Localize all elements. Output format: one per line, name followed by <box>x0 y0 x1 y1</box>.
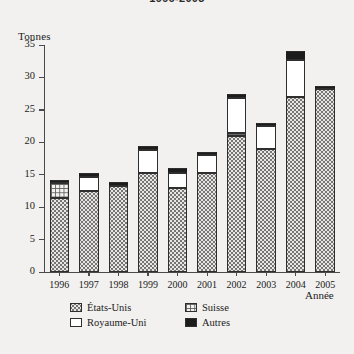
bar-segment-2000-autres <box>168 168 188 173</box>
y-axis-tick <box>39 142 44 143</box>
legend-label: Autres <box>202 317 230 328</box>
bar-segment-2002-autres <box>227 94 247 99</box>
legend-swatch-white-icon <box>70 318 82 327</box>
y-axis-tick-label: 10 <box>5 201 35 211</box>
x-axis-tick <box>59 272 60 276</box>
bar-2005 <box>315 86 335 272</box>
bar-1996 <box>50 180 70 272</box>
x-axis-tick <box>88 272 89 276</box>
bar-segment-2005-autres <box>315 86 335 89</box>
y-axis-tick <box>39 109 44 110</box>
legend-item-autres: Autres <box>185 317 300 328</box>
legend-item--tats-unis: États-Unis <box>70 302 185 313</box>
legend-item-suisse: Suisse <box>185 302 300 313</box>
bar-segment-2000--tats-unis <box>168 188 188 272</box>
x-axis-tick <box>177 272 178 276</box>
bar-segment-1996-autres <box>50 180 70 183</box>
y-axis-line <box>44 45 45 273</box>
y-axis-tick-label: 5 <box>5 234 35 244</box>
bar-segment-2002--tats-unis <box>227 136 247 272</box>
y-axis-tick <box>39 45 44 46</box>
bar-2001 <box>197 152 217 272</box>
bar-segment-1998-autres <box>109 182 129 186</box>
bar-segment-2004--tats-unis <box>286 97 306 272</box>
bar-2004 <box>286 51 306 272</box>
bar-segment-1999-royaume-uni <box>138 150 158 173</box>
bar-segment-1997-autres <box>79 173 99 177</box>
bar-segment-1996--tats-unis <box>50 198 70 272</box>
bar-segment-2003--tats-unis <box>256 149 276 272</box>
bar-segment-2000-royaume-uni <box>168 173 188 188</box>
x-axis-tick <box>236 272 237 276</box>
y-axis-tick-label: 15 <box>5 169 35 179</box>
x-axis-tick-label: 2005 <box>305 279 345 290</box>
y-axis-tick <box>39 77 44 78</box>
chart-figure: 1996-2005 Tonnes Année 05101520253035199… <box>0 0 354 354</box>
y-axis-tick <box>39 207 44 208</box>
legend-swatch-black-icon <box>185 318 197 327</box>
bar-segment-1997-royaume-uni <box>79 177 99 191</box>
bar-segment-1997--tats-unis <box>79 191 99 272</box>
bar-segment-2001--tats-unis <box>197 173 217 272</box>
y-axis-tick-label: 25 <box>5 104 35 114</box>
bar-2002 <box>227 94 247 272</box>
chart-legend: États-UnisSuisseRoyaume-UniAutres <box>70 300 300 330</box>
bar-1999 <box>138 146 158 272</box>
bar-2000 <box>168 168 188 272</box>
legend-label: Suisse <box>202 302 229 313</box>
bar-segment-1999--tats-unis <box>138 173 158 272</box>
y-axis-tick-label: 0 <box>5 266 35 276</box>
bar-segment-1998--tats-unis <box>109 186 129 272</box>
bar-segment-2004-royaume-uni <box>286 60 306 97</box>
bar-1997 <box>79 173 99 272</box>
legend-swatch-grid-icon <box>185 303 197 312</box>
bar-segment-2001-royaume-uni <box>197 155 217 173</box>
y-axis-tick-label: 35 <box>5 39 35 49</box>
bar-segment-2003-autres <box>256 123 276 126</box>
bar-segment-1999-autres <box>138 146 158 150</box>
bar-segment-2003-royaume-uni <box>256 126 276 149</box>
x-axis-tick <box>207 272 208 276</box>
y-axis-tick-label: 20 <box>5 136 35 146</box>
bar-segment-2005--tats-unis <box>315 89 335 272</box>
bar-segment-2002-royaume-uni <box>227 98 247 132</box>
legend-row: Royaume-UniAutres <box>70 315 300 330</box>
legend-row: États-UnisSuisse <box>70 300 300 315</box>
x-axis-tick <box>118 272 119 276</box>
y-axis-tick <box>39 272 44 273</box>
bar-segment-2001-autres <box>197 152 217 155</box>
bar-segment-1996-suisse <box>50 183 70 198</box>
legend-swatch-dotted-icon <box>70 303 82 312</box>
x-axis-tick <box>266 272 267 276</box>
legend-label: États-Unis <box>87 302 131 313</box>
x-axis-tick <box>147 272 148 276</box>
y-axis-tick-label: 30 <box>5 71 35 81</box>
legend-label: Royaume-Uni <box>87 317 147 328</box>
bar-segment-2002-suisse <box>227 133 247 136</box>
y-axis-tick <box>39 239 44 240</box>
x-axis-tick <box>325 272 326 276</box>
bar-1998 <box>109 182 129 272</box>
x-axis-tick <box>295 272 296 276</box>
y-axis-tick <box>39 174 44 175</box>
bar-2003 <box>256 123 276 272</box>
bar-segment-2004-autres <box>286 51 306 59</box>
legend-item-royaume-uni: Royaume-Uni <box>70 317 185 328</box>
